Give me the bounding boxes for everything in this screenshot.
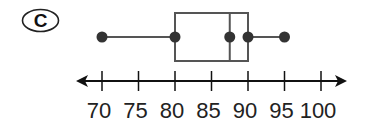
option-label: C [23,10,59,32]
max-point [279,32,290,43]
tick-label: 95 [269,98,293,123]
box-plot-figure: C 707580859095100 [0,0,366,127]
min-point [97,32,108,43]
median-point [224,32,235,43]
tick-label: 70 [87,98,111,123]
option-label-text: C [34,10,48,31]
tick-label: 85 [196,98,220,123]
tick-label: 80 [160,98,184,123]
box-plot [97,13,291,61]
q3-point [243,32,254,43]
number-line-axis: 707580859095100 [76,71,347,123]
q1-point [170,32,181,43]
iqr-box [175,13,248,61]
axis-ticks: 707580859095100 [87,71,337,123]
tick-label: 90 [233,98,257,123]
tick-label: 100 [300,98,337,123]
tick-label: 75 [123,98,147,123]
